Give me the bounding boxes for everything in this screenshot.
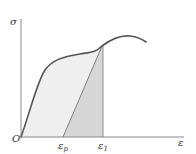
y-axis-label: σ [10, 17, 17, 27]
epsilon-1-subscript: 1 [103, 145, 107, 153]
epsilon-1-label: ε1 [98, 141, 108, 154]
diagram-graphic [0, 0, 196, 154]
origin-label: O [12, 134, 20, 144]
x-axis-label: ε [178, 138, 183, 148]
epsilon-p-subscript: p [63, 145, 67, 153]
stress-strain-diagram: σ O ε εp ε1 [0, 0, 196, 154]
epsilon-p-label: εp [58, 141, 68, 154]
